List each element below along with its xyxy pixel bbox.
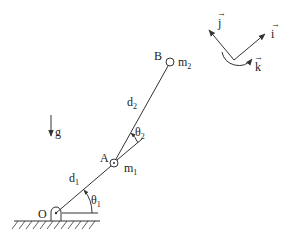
label-d2: d2 <box>127 95 137 111</box>
mass-b <box>166 58 174 66</box>
vector-arrow-i-icon: → <box>271 19 280 29</box>
coordinate-frame: i → j → k → <box>209 8 280 74</box>
pendulum-diagram: O θ1 d1 A m1 θ2 d2 B m2 g i → j → k → <box>0 0 292 241</box>
joint-a <box>110 159 118 167</box>
k-rotation-arrow-icon <box>222 52 252 65</box>
label-m1: m1 <box>124 161 137 177</box>
link-2 <box>116 66 168 159</box>
vector-arrow-j-icon: → <box>217 8 226 18</box>
label-k: k <box>255 60 261 74</box>
vector-arrow-k-icon: → <box>254 52 263 62</box>
label-m2: m2 <box>178 55 191 71</box>
label-o: O <box>38 207 47 221</box>
link-1 <box>56 166 111 213</box>
label-b: B <box>154 49 162 63</box>
label-j: j <box>217 16 221 30</box>
label-i: i <box>271 27 275 41</box>
ground <box>12 221 100 229</box>
label-d1: d1 <box>69 171 79 187</box>
pivot-o <box>51 207 61 221</box>
label-theta1: θ1 <box>91 193 101 209</box>
j-axis-arrow-icon <box>209 30 234 60</box>
label-a: A <box>100 151 109 165</box>
label-theta2: θ2 <box>135 125 145 141</box>
label-g: g <box>55 125 61 139</box>
